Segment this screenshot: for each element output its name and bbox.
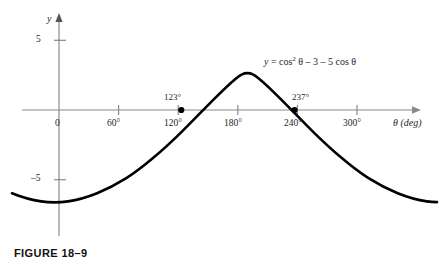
x-tick-label-300: 300° [343, 119, 361, 129]
equation-cos: cos [279, 56, 292, 67]
x-tick-label-180: 180° [224, 119, 242, 129]
annotation-left-root: 123° [164, 93, 181, 102]
figure-container: y 5 –5 0 60° 120° 180° 240° 300° θ (deg)… [0, 0, 445, 272]
y-axis-arrowhead [55, 13, 62, 22]
root-marker-237 [291, 107, 297, 113]
equation-minus-three: – 3 [305, 56, 318, 67]
equation-theta-2: θ [351, 56, 356, 67]
figure-caption: FIGURE 18–9 [14, 247, 87, 259]
y-tick-label-minus5: –5 [31, 174, 41, 184]
curve-path [12, 73, 437, 202]
x-tick-label-0: 0 [55, 119, 60, 129]
x-tick-label-60: 60° [107, 119, 120, 129]
equation-lhs: y [264, 56, 268, 67]
x-axis-arrowhead [412, 106, 421, 114]
x-tick-label-120: 120° [164, 119, 182, 129]
plot-canvas [0, 0, 445, 272]
equation-equals: = [271, 56, 277, 67]
x-axis-label: θ (deg) [393, 118, 422, 128]
equation-label: y = cos2 θ – 3 – 5 cos θ [264, 57, 356, 67]
root-marker-123 [178, 107, 184, 113]
y-axis-label: y [47, 14, 51, 24]
y-tick-label-5: 5 [36, 35, 41, 45]
x-tick-label-240: 240° [284, 119, 302, 129]
equation-exponent: 2 [292, 55, 295, 62]
equation-theta-1: θ [298, 56, 303, 67]
equation-minus-five-cos: – 5 cos [320, 56, 348, 67]
annotation-right-root: 237° [292, 93, 309, 102]
